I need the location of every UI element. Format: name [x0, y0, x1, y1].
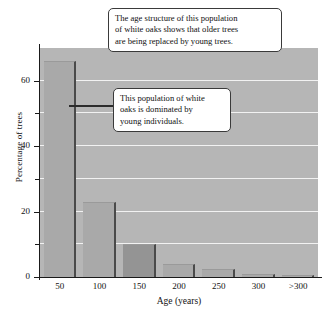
bar-150 [123, 244, 156, 277]
x-tick-label: 50 [40, 281, 80, 291]
chart-figure: 020406050100150200250300>300 Percentage … [0, 0, 330, 320]
bar-50 [44, 61, 77, 277]
x-tick-label: 250 [199, 281, 239, 291]
annotation-line: young individuals. [120, 116, 224, 127]
callout-leader-line [69, 105, 115, 107]
y-axis-line [39, 44, 40, 280]
bar-200 [163, 264, 196, 277]
annotation-callout-top: The age structure of this population of … [108, 8, 282, 52]
annotation-line: The age structure of this population [115, 13, 275, 24]
annotation-line: This population of white [120, 93, 224, 104]
annotation-line: are being replaced by young trees. [115, 36, 275, 47]
y-tick-label: 60 [8, 76, 30, 85]
x-axis-title: Age (years) [40, 296, 318, 306]
annotation-callout-bottom: This population of white oaks is dominat… [113, 88, 231, 132]
x-tick-label: 200 [159, 281, 199, 291]
y-tick-label: 20 [8, 207, 30, 216]
x-tick-label: 300 [239, 281, 279, 291]
bar-100 [83, 202, 116, 277]
x-tick-label: >300 [278, 281, 318, 291]
plot-area [40, 48, 318, 277]
y-axis-title: Percentage of trees [14, 87, 24, 207]
x-axis-line [36, 277, 322, 278]
x-tick-label: 100 [80, 281, 120, 291]
annotation-line: oaks is dominated by [120, 104, 224, 115]
y-tick-label: 0 [8, 272, 30, 281]
bar-250 [202, 269, 235, 277]
bar-group [40, 48, 318, 277]
annotation-line: of white oaks shows that older trees [115, 24, 275, 35]
x-tick-label: 150 [119, 281, 159, 291]
